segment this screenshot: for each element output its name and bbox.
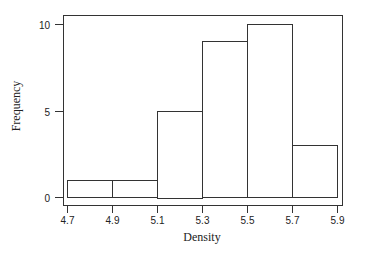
x-tick-label: 5.9: [331, 215, 345, 226]
y-axis: 0510: [39, 20, 64, 204]
histogram-bar: [203, 42, 248, 198]
y-tick-label: 10: [39, 20, 51, 31]
bars: [68, 25, 338, 199]
x-axis-label: Density: [183, 230, 220, 244]
histogram-bar: [293, 146, 338, 198]
y-tick-label: 5: [44, 107, 50, 118]
x-tick-label: 4.7: [61, 215, 75, 226]
x-tick-label: 5.7: [286, 215, 300, 226]
histogram-bar: [113, 181, 158, 198]
histogram-chart: 0510 4.74.95.15.35.55.75.9 Density Frequ…: [0, 0, 367, 254]
y-tick-label: 0: [44, 193, 50, 204]
x-axis: 4.74.95.15.35.55.75.9: [61, 206, 345, 227]
x-tick-label: 5.5: [241, 215, 255, 226]
histogram-bar: [158, 112, 203, 199]
histogram-bar: [248, 25, 293, 198]
x-tick-label: 4.9: [106, 215, 120, 226]
x-tick-label: 5.1: [151, 215, 165, 226]
histogram-bar: [68, 181, 113, 198]
y-axis-label: Frequency: [9, 81, 23, 132]
x-tick-label: 5.3: [196, 215, 210, 226]
